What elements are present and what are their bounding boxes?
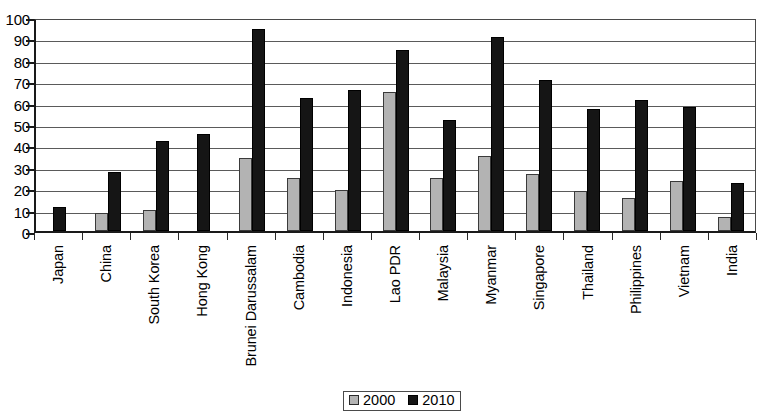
bar-group bbox=[611, 20, 659, 231]
bar-group bbox=[228, 20, 276, 231]
x-axis-tick-mark bbox=[82, 233, 83, 240]
x-axis-category-label: Thailand bbox=[580, 245, 595, 300]
x-axis-tick-mark bbox=[371, 233, 372, 240]
bar-2010 bbox=[348, 90, 361, 231]
bar-2000 bbox=[335, 190, 348, 231]
x-axis-tick-mark bbox=[708, 233, 709, 240]
x-axis-label-cell: South Korea bbox=[130, 243, 178, 368]
bar-2010 bbox=[252, 29, 265, 231]
x-axis-tick-mark bbox=[419, 233, 420, 240]
bar-2000 bbox=[239, 158, 252, 231]
x-axis-label-cell: Brunei Darussalam bbox=[227, 243, 275, 368]
bar-group bbox=[324, 20, 372, 231]
plot-area bbox=[34, 19, 756, 233]
bar-group bbox=[659, 20, 707, 231]
x-axis-tick-mark bbox=[660, 233, 661, 240]
bar-2010 bbox=[443, 120, 456, 231]
y-axis-tick-mark bbox=[26, 169, 34, 171]
bar-chart: 0102030405060708090100 JapanChinaSouth K… bbox=[0, 0, 760, 417]
bar-group bbox=[707, 20, 755, 231]
bar-2000 bbox=[478, 156, 491, 231]
y-axis-tick-mark bbox=[26, 147, 34, 149]
x-axis-tick-mark bbox=[275, 233, 276, 240]
x-axis-tick-mark bbox=[34, 233, 35, 240]
bar-2000 bbox=[622, 198, 635, 231]
x-axis-tick-mark bbox=[756, 233, 757, 240]
x-axis-label-cell: Lao PDR bbox=[371, 243, 419, 368]
x-axis-category-label: Vietnam bbox=[677, 245, 692, 297]
y-axis-tick-mark bbox=[26, 105, 34, 107]
bar-2010 bbox=[731, 183, 744, 231]
x-axis-tick-mark bbox=[178, 233, 179, 240]
x-axis-label-cell: Vietnam bbox=[660, 243, 708, 368]
legend-item: 2000 bbox=[349, 393, 395, 408]
bar-2000 bbox=[430, 178, 443, 232]
x-axis-tick-mark bbox=[612, 233, 613, 240]
bar-2010 bbox=[587, 109, 600, 231]
x-axis-label-cell: Cambodia bbox=[275, 243, 323, 368]
x-axis-category-label: Japan bbox=[51, 245, 66, 284]
bar-2000 bbox=[143, 210, 156, 231]
x-axis-tick-mark bbox=[467, 233, 468, 240]
x-axis-label-cell: Japan bbox=[34, 243, 82, 368]
bar-2010 bbox=[539, 80, 552, 231]
bar-groups bbox=[36, 20, 755, 231]
gray-swatch bbox=[349, 395, 359, 405]
y-axis-tick-mark bbox=[26, 233, 34, 235]
y-axis-tick-mark bbox=[26, 40, 34, 42]
bar-2010 bbox=[197, 134, 210, 231]
x-axis-label-cell: Singapore bbox=[515, 243, 563, 368]
x-axis-category-label: Singapore bbox=[532, 245, 547, 310]
bar-group bbox=[36, 20, 84, 231]
bar-group bbox=[132, 20, 180, 231]
bar-group bbox=[515, 20, 563, 231]
y-axis-labels: 0102030405060708090100 bbox=[0, 0, 30, 245]
bar-2000 bbox=[574, 191, 587, 231]
y-axis-tick-mark bbox=[26, 212, 34, 214]
bar-group bbox=[563, 20, 611, 231]
bar-group bbox=[372, 20, 420, 231]
x-axis-label-cell: China bbox=[82, 243, 130, 368]
x-axis-category-label: Indonesia bbox=[340, 245, 355, 307]
bar-group bbox=[180, 20, 228, 231]
bar-group bbox=[420, 20, 468, 231]
y-axis-tick-mark bbox=[26, 62, 34, 64]
x-axis-label-cell: Thailand bbox=[563, 243, 611, 368]
bar-2000 bbox=[287, 178, 300, 232]
bar-2010 bbox=[300, 98, 313, 231]
x-axis-category-label: Myanmar bbox=[484, 245, 499, 305]
x-axis-tick-mark bbox=[515, 233, 516, 240]
bar-2000 bbox=[526, 174, 539, 231]
legend-label: 2010 bbox=[422, 393, 454, 408]
x-axis-ticks bbox=[34, 233, 756, 241]
bar-2010 bbox=[108, 172, 121, 231]
x-axis-category-label: Lao PDR bbox=[388, 245, 403, 303]
bar-2000 bbox=[670, 181, 683, 231]
bar-2010 bbox=[491, 37, 504, 231]
x-axis-category-label: Brunei Darussalam bbox=[243, 245, 258, 367]
x-axis-category-label: Malaysia bbox=[436, 245, 451, 301]
bar-2010 bbox=[635, 100, 648, 231]
x-axis-label-cell: Malaysia bbox=[419, 243, 467, 368]
x-axis-label-cell: Hong Kong bbox=[178, 243, 226, 368]
bar-2000 bbox=[95, 213, 108, 231]
bar-2010 bbox=[156, 141, 169, 231]
y-axis-tick-mark bbox=[26, 83, 34, 85]
black-swatch bbox=[408, 395, 418, 405]
legend-item: 2010 bbox=[408, 393, 454, 408]
bar-2010 bbox=[53, 207, 66, 231]
y-axis-tick-mark bbox=[26, 190, 34, 192]
x-axis-category-label: Hong Kong bbox=[195, 245, 210, 317]
y-axis-tick-mark bbox=[26, 19, 34, 21]
y-axis-tick-mark bbox=[26, 126, 34, 128]
x-axis-label-cell: Philippines bbox=[612, 243, 660, 368]
bar-group bbox=[276, 20, 324, 231]
bar-2010 bbox=[683, 107, 696, 231]
bar-2000 bbox=[718, 217, 731, 231]
bar-group bbox=[84, 20, 132, 231]
bar-2010 bbox=[396, 50, 409, 231]
bar-group bbox=[467, 20, 515, 231]
x-axis-category-label: India bbox=[725, 245, 740, 276]
x-axis-label-cell: Indonesia bbox=[323, 243, 371, 368]
x-axis-tick-mark bbox=[323, 233, 324, 240]
